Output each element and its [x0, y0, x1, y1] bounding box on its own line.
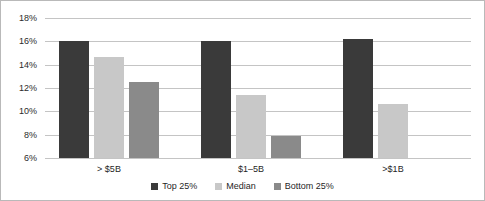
bar-group — [187, 18, 329, 158]
bar — [343, 39, 373, 158]
y-axis-tick-label: 18% — [3, 14, 37, 23]
gridline — [45, 158, 471, 159]
legend-swatch-icon — [274, 183, 281, 190]
legend-swatch-icon — [215, 183, 222, 190]
plot-area — [45, 18, 471, 158]
y-axis-tick-label: 6% — [3, 154, 37, 163]
bar — [378, 104, 408, 158]
legend-item[interactable]: Median — [215, 182, 256, 191]
bar — [59, 41, 89, 158]
y-axis-tick-label: 14% — [3, 60, 37, 69]
legend-label: Top 25% — [162, 182, 197, 191]
y-axis-tick-label: 12% — [3, 84, 37, 93]
bar — [271, 136, 301, 158]
y-axis-tick-label: 16% — [3, 37, 37, 46]
legend-swatch-icon — [151, 183, 158, 190]
bar — [236, 95, 266, 158]
bar — [201, 41, 231, 158]
y-axis-tick-label: 8% — [3, 130, 37, 139]
bar-group — [329, 18, 471, 158]
y-axis-tick-label: 10% — [3, 107, 37, 116]
x-axis-category-label: > $5B — [97, 164, 121, 174]
bar — [129, 82, 159, 158]
bar-group — [45, 18, 187, 158]
legend-label: Bottom 25% — [285, 182, 334, 191]
x-axis-category-label: >$1B — [382, 164, 403, 174]
bar — [94, 57, 124, 159]
chart-legend: Top 25%MedianBottom 25% — [1, 182, 484, 191]
x-axis-category-label: $1–5B — [238, 164, 264, 174]
legend-item[interactable]: Top 25% — [151, 182, 197, 191]
legend-label: Median — [226, 182, 256, 191]
legend-item[interactable]: Bottom 25% — [274, 182, 334, 191]
bar-chart-figure: 6%8%10%12%14%16%18% > $5B$1–5B>$1B Top 2… — [0, 0, 485, 201]
